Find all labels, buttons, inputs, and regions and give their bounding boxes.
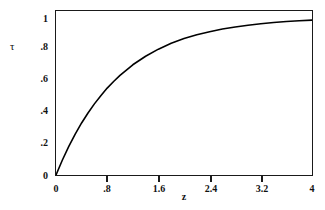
y-tick-label-0.6: .6	[24, 74, 48, 84]
y-tick-label-0: 0	[24, 171, 48, 181]
x-tick-mark-0.8	[106, 176, 108, 182]
x-tick-mark-1.6	[158, 176, 160, 182]
x-tick-label-3.2: 3.2	[256, 184, 269, 194]
y-axis-label: τ	[10, 41, 14, 52]
y-tick-label-1: 1	[24, 14, 48, 24]
x-tick-mark-2.4	[210, 176, 212, 182]
figure-canvas: τ 0 .2 .4 .6 .8 1 0 .8 1.6 2.4 3.2 4 z	[0, 0, 325, 210]
x-tick-label-1.6: 1.6	[153, 184, 166, 194]
x-tick-label-0: 0	[54, 184, 59, 194]
y-tick-label-0.2: .2	[24, 138, 48, 148]
y-tick-label-0.4: .4	[24, 106, 48, 116]
x-tick-mark-3.2	[261, 176, 263, 182]
x-axis-label: z	[182, 192, 186, 202]
data-series-tau	[56, 20, 312, 175]
x-tick-label-4: 4	[310, 184, 315, 194]
x-tick-label-2.4: 2.4	[205, 184, 218, 194]
data-curve-svg	[56, 11, 312, 175]
plot-area	[55, 10, 313, 176]
y-tick-label-0.8: .8	[24, 42, 48, 52]
x-tick-label-0.8: .8	[103, 184, 111, 194]
